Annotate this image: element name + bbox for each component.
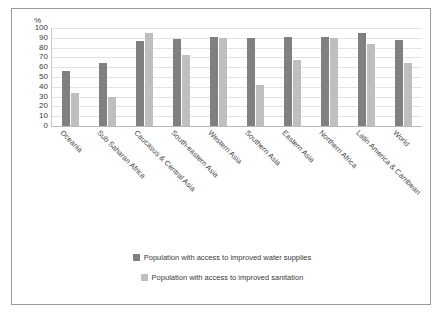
bar-water-supplies (321, 37, 329, 126)
bar-sanitation (219, 38, 227, 126)
bar-water-supplies (358, 33, 366, 126)
bar-water-supplies (99, 63, 107, 126)
chart-legend: Population with access to improved water… (12, 247, 432, 287)
bar-group (200, 28, 237, 126)
x-axis-label: World (391, 129, 410, 148)
bar-water-supplies (247, 38, 255, 126)
y-axis-tick-labels: 1009080706050403020100 (20, 28, 48, 126)
x-axis-label: Latin America & Carribean (354, 129, 422, 197)
bar-group (163, 28, 200, 126)
legend-swatch-icon (141, 274, 148, 281)
bar-sanitation (367, 44, 375, 126)
bar-group (126, 28, 163, 126)
bar-sanitation (330, 38, 338, 126)
bar-sanitation (293, 60, 301, 126)
x-axis-label: Eastern Asia (280, 129, 315, 164)
bar-water-supplies (395, 40, 403, 126)
bar-group (311, 28, 348, 126)
bar-series-group (52, 28, 422, 126)
bar-group (237, 28, 274, 126)
bar-water-supplies (136, 41, 144, 126)
chart-container: % 1009080706050403020100 OceaniaSub Saha… (11, 8, 431, 305)
legend-item: Population with access to improved water… (12, 247, 432, 267)
bar-group (274, 28, 311, 126)
y-axis-tick: 0 (44, 122, 48, 130)
y-axis-tick: 60 (39, 63, 48, 71)
y-axis-tick: 10 (39, 112, 48, 120)
x-axis-label: Western Asia (206, 129, 243, 166)
bar-group (348, 28, 385, 126)
bar-water-supplies (62, 71, 70, 126)
y-axis-tick: 50 (39, 73, 48, 81)
plot-area (51, 28, 422, 127)
bar-water-supplies (173, 39, 181, 126)
bar-group (385, 28, 422, 126)
plot-area-wrapper: % 1009080706050403020100 OceaniaSub Saha… (12, 9, 432, 149)
bar-sanitation (182, 55, 190, 126)
y-axis-tick: 100 (35, 24, 48, 32)
legend-label: Population with access to improved sanit… (152, 273, 304, 282)
x-axis-label: Oceania (58, 129, 83, 154)
bar-group (52, 28, 89, 126)
legend-label: Population with access to improved water… (144, 253, 312, 262)
x-axis-label: Northern Africa (317, 129, 358, 170)
bar-sanitation (256, 85, 264, 126)
y-axis-tick: 90 (39, 34, 48, 42)
x-axis-category-labels: OceaniaSub Saharan AfricaCaucasus & Cent… (51, 129, 421, 239)
legend-item: Population with access to improved sanit… (12, 267, 432, 287)
legend-swatch-icon (133, 254, 140, 261)
y-axis-tick: 20 (39, 102, 48, 110)
bar-sanitation (145, 33, 153, 126)
bar-water-supplies (210, 37, 218, 126)
y-axis-tick: 30 (39, 93, 48, 101)
bar-sanitation (108, 97, 116, 126)
y-axis-tick: 70 (39, 53, 48, 61)
bar-sanitation (71, 93, 79, 126)
y-axis-tick: 40 (39, 83, 48, 91)
bar-water-supplies (284, 37, 292, 126)
bar-group (89, 28, 126, 126)
x-axis-label: Southern Asia (243, 129, 282, 168)
y-axis-tick: 80 (39, 44, 48, 52)
bar-sanitation (404, 63, 412, 126)
